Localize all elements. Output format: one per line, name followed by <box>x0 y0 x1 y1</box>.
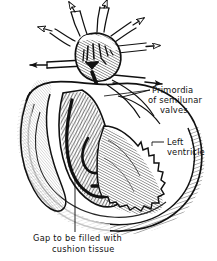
label-left-ventricle-line1: Left <box>167 137 184 147</box>
caption-line1: Gap to be filled with <box>33 233 122 243</box>
label-primordia-line2: of semilunar <box>148 95 202 105</box>
label-primordia-line1: Primordia <box>152 85 193 95</box>
heart-diagram-svg: Primordia of semilunar valves Left ventr… <box>0 0 217 261</box>
label-primordia-line3: valves <box>160 105 188 115</box>
label-left-ventricle-line2: ventricle <box>167 147 205 157</box>
caption-line2: cushion tissue <box>52 244 115 254</box>
anatomical-figure: Primordia of semilunar valves Left ventr… <box>0 0 217 261</box>
